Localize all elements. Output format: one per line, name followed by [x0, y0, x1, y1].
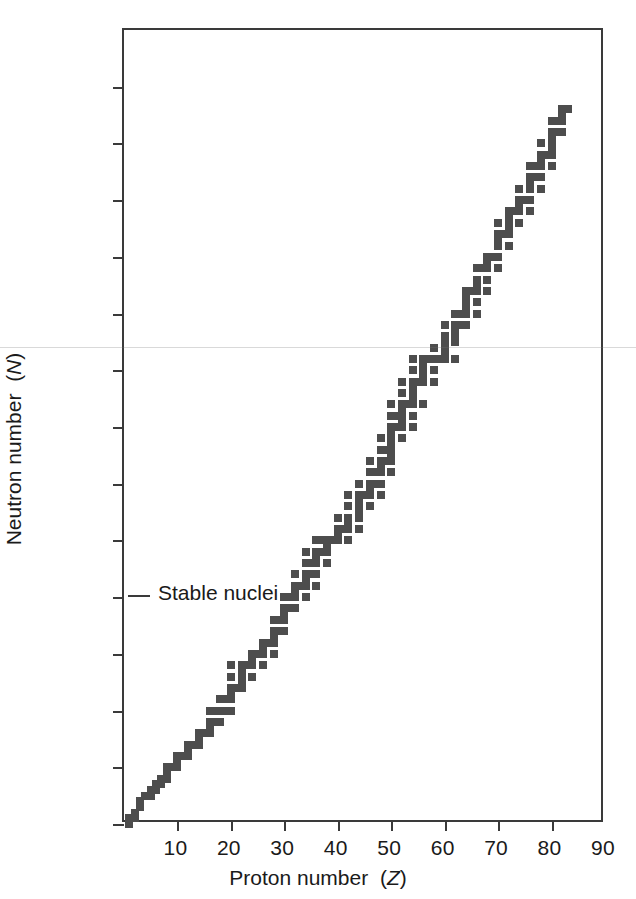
nuclide-marker — [398, 389, 406, 397]
nuclide-marker — [280, 627, 288, 635]
y-axis-title: Neutron number (N) — [2, 353, 26, 546]
nuclide-marker — [441, 321, 449, 329]
x-tick-70 — [498, 820, 500, 831]
nuclide-marker — [451, 355, 459, 363]
y-tick-0 — [113, 824, 124, 826]
y-tick-100 — [113, 257, 124, 259]
nuclide-marker — [515, 185, 523, 193]
nuclide-marker — [430, 366, 438, 374]
y-tick-70 — [113, 427, 124, 429]
nuclide-marker — [483, 276, 491, 284]
x-tick-label-20: 20 — [217, 836, 241, 860]
y-tick-110 — [113, 200, 124, 202]
y-axis-title-paren: (N) — [2, 353, 25, 388]
x-tick-label-90: 90 — [591, 836, 615, 860]
y-tick-30 — [113, 654, 124, 656]
nuclide-marker — [558, 128, 566, 136]
x-tick-label-70: 70 — [484, 836, 508, 860]
nuclide-marker — [270, 650, 278, 658]
nuclide-marker — [227, 707, 235, 715]
stable-nuclei-chart: 0102030405060708090100110120130140 10203… — [0, 0, 636, 899]
x-axis-title-text: Proton number — [229, 866, 368, 889]
nuclide-marker — [409, 366, 417, 374]
nuclide-marker — [366, 457, 374, 465]
nuclide-marker — [505, 242, 513, 250]
nuclide-marker — [377, 491, 385, 499]
nuclide-marker — [548, 162, 556, 170]
nuclide-marker — [248, 673, 256, 681]
y-tick-10 — [113, 767, 124, 769]
x-tick-40 — [338, 820, 340, 831]
x-tick-20 — [231, 820, 233, 831]
x-tick-label-40: 40 — [324, 836, 348, 860]
x-tick-label-30: 30 — [270, 836, 294, 860]
nuclide-marker — [334, 514, 342, 522]
stable-nuclei-label: Stable nuclei — [158, 581, 278, 605]
plot-area — [122, 28, 603, 822]
nuclide-marker — [216, 718, 224, 726]
nuclide-marker — [537, 139, 545, 147]
nuclide-marker — [494, 253, 502, 261]
stable-nuclei-leader-dash — [128, 595, 150, 597]
nuclide-marker — [398, 378, 406, 386]
y-tick-120 — [113, 143, 124, 145]
y-axis-title-text: Neutron number — [2, 394, 25, 546]
nuclide-marker — [526, 207, 534, 215]
y-tick-40 — [113, 597, 124, 599]
x-tick-label-60: 60 — [431, 836, 455, 860]
nuclide-marker — [377, 480, 385, 488]
nuclide-marker — [355, 480, 363, 488]
nuclide-marker — [259, 661, 267, 669]
y-tick-20 — [113, 711, 124, 713]
nuclide-marker — [344, 491, 352, 499]
nuclide-marker — [430, 378, 438, 386]
nuclide-marker — [494, 219, 502, 227]
y-tick-50 — [113, 540, 124, 542]
nuclide-marker — [312, 582, 320, 590]
nuclide-marker — [291, 604, 299, 612]
x-axis-tick-labels: 102030405060708090 — [122, 836, 603, 864]
x-tick-30 — [284, 820, 286, 831]
y-tick-80 — [113, 370, 124, 372]
nuclide-marker — [227, 661, 235, 669]
nuclide-marker — [302, 548, 310, 556]
nuclide-marker — [409, 423, 417, 431]
y-tick-90 — [113, 314, 124, 316]
nuclide-marker — [441, 332, 449, 340]
x-axis-symbol: Z — [387, 866, 400, 889]
nuclide-marker — [366, 502, 374, 510]
x-tick-label-80: 80 — [538, 836, 562, 860]
nuclide-marker — [462, 321, 470, 329]
x-tick-80 — [552, 820, 554, 831]
nuclide-marker — [323, 559, 331, 567]
nuclide-marker — [344, 536, 352, 544]
nuclide-marker — [494, 264, 502, 272]
nuclide-marker — [344, 514, 352, 522]
nuclide-marker — [473, 310, 481, 318]
x-tick-10 — [177, 820, 179, 831]
nuclide-marker — [398, 434, 406, 442]
nuclide-marker — [355, 525, 363, 533]
x-tick-label-10: 10 — [163, 836, 187, 860]
nuclide-marker — [344, 502, 352, 510]
x-axis-title: Proton number (Z) — [0, 866, 636, 890]
nuclide-marker — [419, 400, 427, 408]
nuclide-marker — [291, 570, 299, 578]
nuclide-marker — [387, 468, 395, 476]
x-axis-title-paren: (Z) — [374, 866, 407, 889]
nuclide-marker — [312, 570, 320, 578]
y-tick-60 — [113, 484, 124, 486]
nuclide-marker — [227, 673, 235, 681]
nuclide-marker — [409, 412, 417, 420]
nuclide-marker — [537, 185, 545, 193]
y-tick-130 — [113, 87, 124, 89]
nuclide-marker — [515, 219, 523, 227]
x-tick-label-50: 50 — [377, 836, 401, 860]
x-tick-60 — [445, 820, 447, 831]
nuclide-marker — [473, 276, 481, 284]
nuclide-marker — [409, 355, 417, 363]
nuclide-marker — [302, 593, 310, 601]
nuclide-marker — [483, 287, 491, 295]
nuclide-marker — [537, 173, 545, 181]
y-axis-symbol: N — [2, 360, 25, 375]
